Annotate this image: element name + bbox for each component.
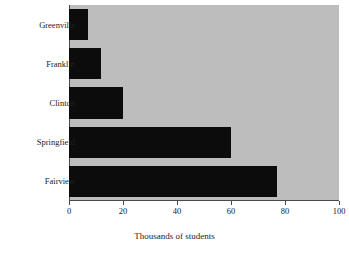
x-tick-label-100: 100 — [324, 206, 349, 216]
y-axis-label-springfield: Springfield — [37, 137, 75, 147]
x-axis-title: Thousands of students — [0, 231, 349, 242]
bar-chart: GreenvilleFranklinClintonSpringfieldFair… — [0, 0, 349, 254]
y-axis-label-fairview: Fairview — [45, 176, 75, 186]
y-axis-label-clinton: Clinton — [49, 98, 75, 108]
x-tick-label-80: 80 — [270, 206, 300, 216]
y-axis-label-greenville: Greenville — [39, 20, 75, 30]
x-tick-label-40: 40 — [162, 206, 192, 216]
x-tick-mark-100 — [339, 201, 340, 205]
bar-fairview — [69, 166, 277, 197]
x-tick-label-0: 0 — [54, 206, 84, 216]
bar-springfield — [69, 127, 231, 158]
x-tick-mark-60 — [231, 201, 232, 205]
x-tick-mark-80 — [285, 201, 286, 205]
x-axis-line — [69, 200, 339, 201]
x-tick-label-60: 60 — [216, 206, 246, 216]
x-tick-mark-20 — [123, 201, 124, 205]
x-tick-mark-0 — [69, 201, 70, 205]
x-tick-mark-40 — [177, 201, 178, 205]
bar-clinton — [69, 87, 123, 118]
y-axis-label-franklin: Franklin — [46, 59, 75, 69]
x-tick-label-20: 20 — [108, 206, 138, 216]
